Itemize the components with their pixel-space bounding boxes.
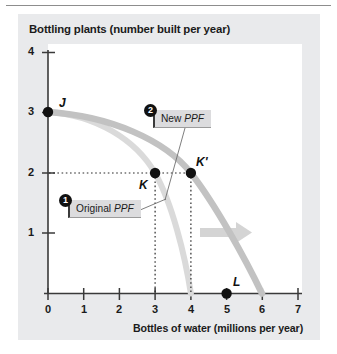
y-tick-label-4: 4 [24,45,38,57]
y-tick-label-1: 1 [24,226,38,238]
callout-new-ppf: New PPF [153,110,211,128]
point-label-k: K [139,178,148,192]
x-tick-label-5: 5 [220,303,234,315]
y-tick-label-2: 2 [24,166,38,178]
point-k-prime [186,168,196,178]
callout-original-ppf-text: Original [76,203,114,214]
point-label-l: L [233,275,240,289]
x-tick-label-1: 1 [77,303,91,315]
callout-badge-1: 1 [59,194,72,207]
x-axis-title: Bottles of water (millions per year) [133,322,303,334]
callout-original-ppf-emph: PPF [114,203,134,214]
guide-lines [49,173,191,292]
x-tick-label-3: 3 [148,303,162,315]
point-label-k-prime: K' [196,155,208,169]
x-tick-label-4: 4 [184,303,198,315]
point-k [150,168,160,178]
point-label-j: J [59,96,66,110]
x-tick-label-6: 6 [255,303,269,315]
point-j [43,107,53,117]
point-l [221,288,231,298]
callout-original-ppf: Original PPF [68,200,141,218]
callout-badge-2: 2 [144,104,157,117]
callout-new-ppf-text: New [161,113,184,124]
x-tick-label-0: 0 [41,303,55,315]
callout-new-ppf-emph: PPF [184,113,204,124]
ppf-figure: Bottling plants (number built per year) [0,0,337,354]
x-tick-label-7: 7 [291,303,305,315]
y-tick-label-3: 3 [24,105,38,117]
chart-canvas [0,0,337,354]
x-tick-label-2: 2 [112,303,126,315]
